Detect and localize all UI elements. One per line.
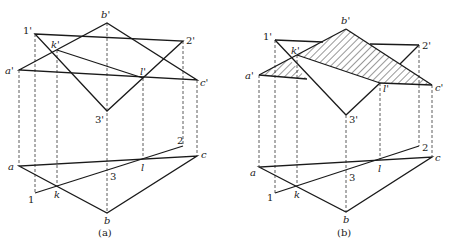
triangle-abc-front [19, 23, 197, 80]
label-l-b: l [378, 163, 381, 174]
intersecting-planes-diagram: 1' b' 2' k' a' l' c' 3' a 2 c l 3 1 k b … [0, 0, 450, 245]
label-ap-b: a' [245, 70, 254, 81]
top-view-a [19, 146, 197, 213]
label-3-b: 3 [349, 172, 355, 183]
label-ap-a: a' [5, 65, 14, 76]
label-2p-b: 2' [422, 40, 431, 51]
label-2p-a: 2' [186, 35, 195, 46]
top-view-b [259, 146, 432, 212]
line-12-top-b [275, 146, 419, 193]
hatch-region-right [297, 29, 432, 85]
caption-b: (b) [337, 227, 351, 238]
line-kl-front [57, 50, 143, 78]
caption-a: (a) [98, 227, 112, 238]
label-3-a: 3 [110, 171, 116, 182]
label-cp-b: c' [435, 82, 443, 93]
label-2-a: 2 [177, 135, 183, 146]
edge-1p-2p-right [370, 44, 419, 45]
label-2-b: 2 [422, 142, 428, 153]
front-view-a [19, 23, 197, 111]
label-l-a: l [141, 162, 144, 173]
edge-2p-3p-upper [400, 45, 419, 64]
label-3p-a: 3' [95, 114, 104, 125]
line-12-top [35, 146, 183, 193]
label-b-b: b [343, 214, 349, 225]
label-k-b: k [294, 189, 300, 200]
triangle-abc-top-b [259, 157, 432, 212]
panel-b: 1' b' 2' k' a' l' c' 3' a 2 c l 3 1 k b … [245, 15, 443, 238]
label-kp-b: k' [291, 45, 300, 56]
triangle-abc-top [19, 156, 197, 213]
label-1-a: 1 [28, 194, 34, 205]
edge-2p-3p-lower [346, 83, 380, 115]
label-bp-b: b' [341, 15, 350, 26]
label-lp-a: l' [140, 66, 146, 77]
label-3p-b: 3' [349, 114, 358, 125]
label-bp-a: b' [101, 9, 110, 20]
label-b-a: b [104, 215, 110, 226]
label-cp-a: c' [200, 77, 208, 88]
panel-a: 1' b' 2' k' a' l' c' 3' a 2 c l 3 1 k b … [5, 9, 208, 238]
label-c-a: c [201, 149, 207, 160]
label-lp-b: l' [383, 83, 389, 94]
projection-lines-a [19, 23, 197, 213]
label-1p-b: 1' [263, 31, 272, 42]
label-a-b: a [250, 167, 256, 178]
label-1-b: 1 [267, 192, 273, 203]
label-c-b: c [435, 152, 441, 163]
label-a-a: a [8, 161, 14, 172]
label-kp-a: k' [51, 39, 60, 50]
label-1p-a: 1' [23, 25, 32, 36]
label-k-a: k [54, 189, 60, 200]
edge-1p-2p-left [275, 40, 323, 42]
